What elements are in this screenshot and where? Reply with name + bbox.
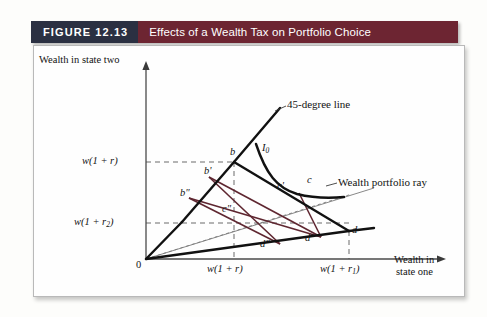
y-tick-label-w1r2: w(1 + r2)	[74, 216, 113, 229]
x-tick-label-w1r1: w(1 + r1)	[320, 263, 359, 276]
y-tick-label-w1r: w(1 + r)	[82, 155, 118, 167]
y-tick2-w: w	[74, 216, 81, 227]
x-tick-body: (1 +	[214, 263, 235, 274]
point-label-d-double-prime: d"	[260, 238, 270, 250]
point-label-b-double-prime: b"	[180, 187, 190, 199]
annotation-wealth-portfolio-ray: Wealth portfolio ray	[338, 176, 427, 188]
y-tick-body: (1 +	[89, 155, 110, 166]
x-tick2-w: w	[320, 263, 327, 274]
y-axis-arrowhead	[142, 61, 149, 70]
figure-plot-frame: Wealth in state two Wealth in state one …	[33, 45, 465, 297]
point-label-c-prime: c'	[277, 180, 284, 192]
point-label-d: d	[352, 224, 357, 236]
x-axis-arrowhead	[437, 255, 446, 262]
x-tick2-close: )	[356, 263, 360, 274]
figure-root: FIGURE 12.13 Effects of a Wealth Tax on …	[0, 0, 487, 317]
x-tick-label-w1r: w(1 + r)	[207, 263, 243, 275]
x-axis-title-line1: Wealth in	[394, 254, 434, 266]
axis-lines	[146, 67, 440, 259]
annotation-leaders	[275, 106, 337, 186]
line-45-upper	[234, 108, 280, 162]
y-tick2-body: (1 +	[81, 216, 102, 227]
figure-number-tag: FIGURE 12.13	[31, 21, 138, 43]
point-label-c: c	[307, 174, 312, 186]
x-tick2-body: (1 +	[327, 263, 348, 274]
point-label-c-double-prime: c"	[222, 203, 231, 215]
point-label-b: b	[230, 146, 235, 158]
indifference-subscript: 0	[266, 146, 270, 155]
origin-label: 0	[136, 259, 141, 271]
chord-bprime-dprimeprime	[209, 177, 280, 244]
x-axis-title-line2: state one	[396, 266, 433, 278]
figure-title: Effects of a Wealth Tax on Portfolio Cho…	[138, 21, 458, 43]
figure-header: FIGURE 12.13 Effects of a Wealth Tax on …	[31, 21, 458, 43]
leader-wealth-ray	[326, 183, 337, 186]
y-tick-close: )	[114, 155, 118, 166]
point-label-d-prime: d'	[305, 232, 313, 244]
annotation-45-degree-line: 45-degree line	[287, 98, 350, 110]
y-tick2-close: )	[110, 216, 114, 227]
y-axis-title: Wealth in state two	[39, 54, 120, 66]
point-label-b-prime: b'	[204, 165, 212, 177]
x-tick-w: w	[207, 263, 214, 274]
annotation-indifference-curve: I0	[262, 142, 269, 155]
budget-line-posttax	[146, 231, 349, 259]
y-tick-w: w	[82, 155, 89, 166]
x-tick-close: )	[239, 263, 243, 274]
leader-45-degree	[275, 106, 286, 111]
